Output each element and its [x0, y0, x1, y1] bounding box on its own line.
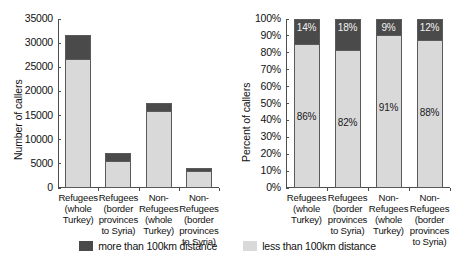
bar-value-label-dark: 14%	[295, 22, 319, 33]
x-axis-category-label-line: Refugees	[286, 192, 327, 203]
legend-label: less than 100km distance	[262, 240, 376, 252]
y-axis-tick-mark	[286, 35, 289, 36]
bar-value-label-light: 88%	[418, 107, 442, 118]
y-axis-tick-label: 20%	[261, 147, 281, 160]
x-axis-category-label-line: (whole	[139, 214, 179, 225]
stacked-bar[interactable]: 14%86%	[294, 19, 320, 188]
stacked-bar[interactable]	[186, 168, 212, 188]
y-axis-tick-mark	[58, 139, 61, 140]
y-axis-tick-label: 30%	[261, 130, 281, 143]
chart-panel-number-of-callers: Number of callers Refugees(wholeTurkey)R…	[0, 0, 228, 232]
x-axis-category-label-line: Refugees	[58, 192, 98, 203]
y-axis-tick-label: 30000	[25, 36, 53, 49]
y-axis-tick-mark	[286, 154, 289, 155]
stacked-bar[interactable]	[146, 103, 172, 188]
bar-segment-less-than-100km[interactable]	[147, 111, 171, 187]
x-axis-category-label: Refugees(borderprovincesto Syria)	[98, 192, 138, 236]
x-axis-category-label-line: provinces	[98, 214, 138, 225]
legend-entry: more than 100km distance	[79, 240, 217, 252]
stacked-bar[interactable]: 9%91%	[376, 19, 402, 188]
bar-value-label-dark: 18%	[336, 22, 360, 33]
x-axis-tick-mark	[219, 188, 220, 191]
x-axis-category-label-line: Turkey)	[368, 225, 409, 236]
y-axis-tick-label: 40%	[261, 113, 281, 126]
bar-segment-more-than-100km[interactable]	[147, 104, 171, 112]
stacked-bar[interactable]: 12%88%	[417, 19, 443, 188]
y-axis-tick-label: 20000	[25, 84, 53, 97]
x-axis-category-label-line: (whole	[58, 203, 98, 214]
y-axis-tick-mark	[286, 120, 289, 121]
y-axis-title-left: Number of callers	[12, 79, 24, 160]
bar-segment-divider	[418, 40, 442, 41]
bar-value-label-light: 86%	[295, 111, 319, 122]
y-axis-tick-label: 15000	[25, 109, 53, 122]
bar-segment-more-than-100km[interactable]: 14%	[295, 20, 319, 44]
bar-segment-less-than-100km[interactable]	[187, 171, 211, 187]
bar-segment-more-than-100km[interactable]: 9%	[377, 20, 401, 35]
y-axis-tick-label: 10000	[25, 133, 53, 146]
x-axis-category-label-line: Refugees	[139, 203, 179, 214]
x-axis-category-label-line: provinces	[409, 225, 450, 236]
y-axis-tick-mark	[286, 137, 289, 138]
y-axis-tick-label: 10%	[261, 164, 281, 177]
bar-segment-less-than-100km[interactable]: 86%	[295, 44, 319, 187]
x-axis-category-label-line: Non-	[368, 192, 409, 203]
y-axis-tick-label: 50%	[261, 97, 281, 110]
y-axis-tick-mark	[58, 43, 61, 44]
stacked-bar-figure: Number of callers Refugees(wholeTurkey)R…	[0, 0, 455, 267]
bar-segment-divider	[187, 171, 211, 172]
y-axis-title-right: Percent of callers	[240, 83, 252, 162]
x-axis-tick-mark	[368, 188, 369, 191]
x-axis-category-label-line: Turkey)	[58, 214, 98, 225]
x-axis-category-label: Refugees(wholeTurkey)	[286, 192, 327, 225]
y-axis-tick-mark	[286, 86, 289, 87]
y-axis-tick-mark	[58, 163, 61, 164]
bar-segment-more-than-100km[interactable]: 12%	[418, 20, 442, 40]
x-axis-category-label: Refugees(borderprovincesto Syria)	[327, 192, 368, 236]
y-axis-tick-label: 100%	[255, 12, 281, 25]
bar-segment-more-than-100km[interactable]: 18%	[336, 20, 360, 50]
y-axis-tick-mark	[58, 91, 61, 92]
bar-segment-divider	[66, 59, 90, 60]
x-axis-category-label-line: (border	[179, 214, 219, 225]
plot-area-right: Refugees(wholeTurkey)Refugees(borderprov…	[286, 19, 450, 188]
y-axis-tick-mark	[58, 19, 61, 20]
x-axis-tick-mark	[327, 188, 328, 191]
y-axis-tick-mark	[286, 103, 289, 104]
bar-segment-less-than-100km[interactable]	[66, 59, 90, 187]
x-axis-category-label-line: provinces	[179, 225, 219, 236]
x-axis-tick-mark	[179, 188, 180, 191]
bar-value-label-dark: 12%	[418, 22, 442, 33]
x-axis-category-label: Refugees(wholeTurkey)	[58, 192, 98, 225]
x-axis-category-label-line: to Syria)	[98, 225, 138, 236]
light-swatch-icon	[243, 241, 257, 251]
bar-segment-less-than-100km[interactable]	[106, 161, 130, 188]
x-axis-tick-mark	[98, 188, 99, 191]
x-axis-tick-mark	[450, 188, 451, 191]
bar-segment-less-than-100km[interactable]: 88%	[418, 40, 442, 187]
y-axis-tick-label: 90%	[261, 29, 281, 42]
stacked-bar[interactable]	[105, 153, 131, 188]
bar-segment-divider	[377, 35, 401, 36]
x-axis-category-label-line: (border	[98, 203, 138, 214]
bar-segment-less-than-100km[interactable]: 91%	[377, 35, 401, 187]
y-axis-tick-label: 0%	[266, 181, 281, 194]
y-axis-tick-label: 25000	[25, 60, 53, 73]
bar-segment-more-than-100km[interactable]	[66, 36, 90, 59]
x-axis-tick-mark	[409, 188, 410, 191]
x-axis-category-label-line: Refugees	[179, 203, 219, 214]
x-axis-category-label-line: (border	[327, 203, 368, 214]
x-axis-labels-right: Refugees(wholeTurkey)Refugees(borderprov…	[286, 188, 450, 234]
x-axis-category-label-line: to Syria)	[327, 225, 368, 236]
x-axis-category-label-line: Non-	[139, 192, 179, 203]
chart-panel-percent-of-callers: Percent of callers Refugees(wholeTurkey)…	[228, 0, 455, 232]
stacked-bar[interactable]: 18%82%	[335, 19, 361, 188]
x-axis-category-label: Non-Refugees(wholeTurkey)	[139, 192, 179, 236]
y-axis-tick-mark	[286, 188, 289, 189]
legend-entry: less than 100km distance	[243, 240, 376, 252]
y-axis-tick-label: 60%	[261, 80, 281, 93]
stacked-bar[interactable]	[65, 35, 91, 188]
chart-legend: more than 100km distanceless than 100km …	[0, 238, 455, 254]
bar-segment-less-than-100km[interactable]: 82%	[336, 50, 360, 187]
bar-segment-divider	[295, 44, 319, 45]
